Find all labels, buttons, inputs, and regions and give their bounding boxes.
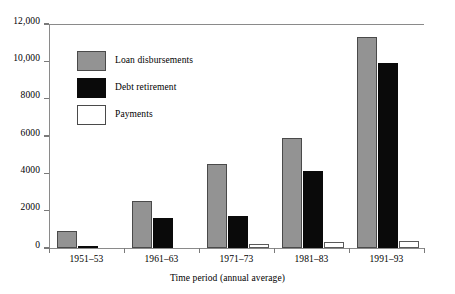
bar-loan: [57, 231, 77, 248]
bar-group: [207, 24, 269, 248]
x-tick-label: 1971–73: [199, 255, 274, 265]
bar-debt: [378, 63, 398, 248]
y-tick-label: 6000: [21, 129, 40, 139]
bar-loan: [282, 138, 302, 248]
legend-item-loan-disbursements: Loan disbursements: [77, 47, 193, 74]
x-axis-line: [49, 248, 424, 249]
bar-group: [282, 24, 344, 248]
x-tick-label: 1951–53: [49, 255, 124, 265]
legend-label: Debt retirement: [115, 83, 176, 93]
x-tick-label: 1981–83: [274, 255, 349, 265]
y-tick-label: 0: [35, 241, 40, 251]
bar-loan: [132, 201, 152, 248]
bar-loan: [207, 164, 227, 248]
x-tick-mark: [349, 248, 350, 253]
chart-legend: Loan disbursements Debt retirement Payme…: [77, 47, 193, 128]
legend-label: Payments: [115, 110, 153, 120]
y-tick-label: 8000: [21, 91, 40, 101]
legend-swatch-loan-disbursements: [77, 51, 106, 71]
bar-debt: [228, 216, 248, 248]
bar-loan: [357, 37, 377, 248]
legend-swatch-debt-retirement: [77, 78, 106, 98]
x-axis-title: Time period (annual average): [0, 274, 455, 284]
x-tick-mark: [199, 248, 200, 253]
y-tick-label: 12,000: [13, 17, 40, 27]
y-tick-label: 2000: [21, 203, 40, 213]
legend-label: Loan disbursements: [115, 56, 193, 66]
bar-pay: [399, 241, 419, 248]
bar-group: [357, 24, 419, 248]
legend-swatch-payments: [77, 105, 106, 125]
bar-debt: [153, 218, 173, 248]
x-tick-mark: [49, 248, 50, 253]
x-tick-mark: [124, 248, 125, 253]
x-tick-mark: [424, 248, 425, 253]
legend-item-payments: Payments: [77, 101, 193, 128]
bar-debt: [303, 171, 323, 248]
bar-chart: 0 2000 4000 6000 8000 10,000 12,000: [0, 0, 455, 294]
legend-item-debt-retirement: Debt retirement: [77, 74, 193, 101]
x-tick-mark: [274, 248, 275, 253]
y-tick-label: 10,000: [13, 54, 40, 64]
y-tick-label: 4000: [21, 166, 40, 176]
x-tick-label: 1991–93: [349, 255, 424, 265]
x-tick-label: 1961–63: [124, 255, 199, 265]
